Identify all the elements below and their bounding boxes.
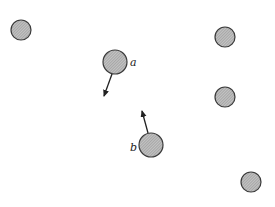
particle-6 (241, 172, 261, 192)
particle-a (103, 50, 127, 74)
particle-3 (215, 27, 235, 47)
velocity-arrow-a (104, 74, 112, 96)
diagram-canvas: a b (0, 0, 275, 207)
label-a: a (130, 56, 137, 69)
particle-1 (11, 20, 31, 40)
velocity-arrow-b (142, 111, 148, 133)
particle-4 (215, 87, 235, 107)
particle-b (139, 133, 163, 157)
label-b: b (130, 141, 137, 154)
particle-diagram: a b (0, 0, 275, 207)
